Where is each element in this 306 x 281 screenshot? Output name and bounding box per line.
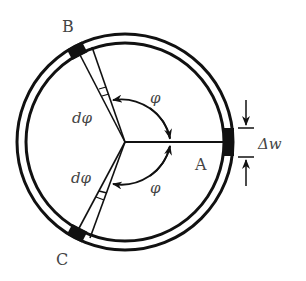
label-a: A xyxy=(194,155,207,174)
block-c xyxy=(67,224,88,243)
wedge-b xyxy=(78,47,125,142)
label-dphi-lower: dφ xyxy=(71,169,92,187)
angle-arc-upper-tip xyxy=(150,108,170,138)
block-a xyxy=(224,128,234,156)
angle-arc-lower-tip xyxy=(150,146,170,176)
block-b xyxy=(67,42,88,61)
label-delta-w: Δw xyxy=(257,135,282,153)
ring-diagram: B C A φ φ dφ dφ Δw xyxy=(0,0,306,281)
label-dphi-upper: dφ xyxy=(72,109,93,127)
label-b: B xyxy=(62,17,74,36)
label-phi-lower: φ xyxy=(150,179,161,197)
label-c: C xyxy=(56,250,68,269)
label-phi-upper: φ xyxy=(150,89,161,107)
wedge-c xyxy=(77,142,125,238)
thickness-dimension xyxy=(238,100,254,186)
